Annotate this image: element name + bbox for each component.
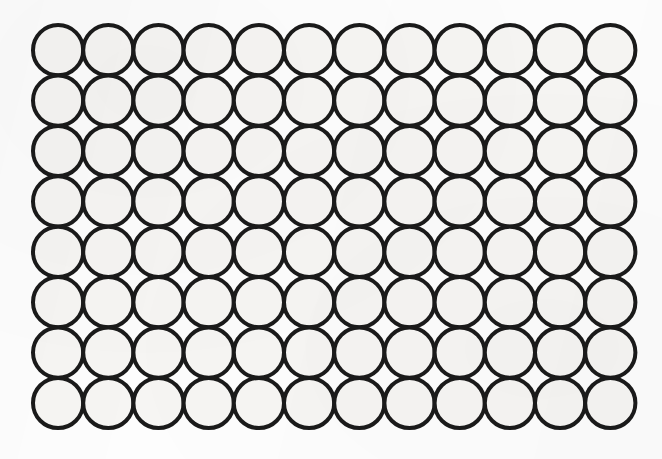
lattice-circle [485,76,535,126]
lattice-circle [133,227,183,277]
lattice-circle [435,378,485,428]
lattice-circle [83,126,133,176]
lattice-circle [585,176,635,226]
lattice-circle [234,227,284,277]
lattice-circle [184,378,234,428]
lattice-circle [334,76,384,126]
lattice-circle [234,378,284,428]
lattice-circle [585,378,635,428]
lattice-circle [535,378,585,428]
lattice-circle [435,25,485,75]
circle-lattice [0,0,662,459]
circle-group [33,25,635,428]
lattice-circle [334,126,384,176]
lattice-circle [334,25,384,75]
lattice-circle [435,328,485,378]
lattice-circle [485,277,535,327]
lattice-circle [184,25,234,75]
lattice-circle [33,328,83,378]
lattice-circle [585,227,635,277]
lattice-circle [435,126,485,176]
lattice-circle [485,176,535,226]
lattice-circle [284,126,334,176]
lattice-circle [384,378,434,428]
lattice-circle [83,328,133,378]
lattice-circle [585,277,635,327]
lattice-circle [284,328,334,378]
lattice-circle [284,76,334,126]
lattice-circle [485,126,535,176]
lattice-circle [133,378,183,428]
lattice-circle [585,126,635,176]
lattice-circle [33,176,83,226]
lattice-circle [33,76,83,126]
lattice-circle [33,25,83,75]
lattice-circle [334,227,384,277]
lattice-circle [83,76,133,126]
lattice-circle [435,227,485,277]
lattice-circle [184,227,234,277]
figure-canvas [0,0,662,459]
lattice-circle [133,277,183,327]
lattice-circle [585,25,635,75]
lattice-circle [234,25,284,75]
lattice-circle [133,126,183,176]
lattice-circle [485,328,535,378]
lattice-circle [384,277,434,327]
lattice-circle [234,328,284,378]
lattice-circle [384,227,434,277]
lattice-circle [435,277,485,327]
lattice-circle [133,176,183,226]
lattice-circle [284,378,334,428]
lattice-circle [234,76,284,126]
lattice-circle [133,328,183,378]
lattice-circle [184,76,234,126]
lattice-circle [284,176,334,226]
lattice-circle [184,126,234,176]
lattice-circle [33,227,83,277]
lattice-circle [485,227,535,277]
lattice-circle [535,227,585,277]
lattice-circle [535,76,585,126]
lattice-circle [33,126,83,176]
lattice-circle [33,277,83,327]
lattice-circle [535,277,585,327]
lattice-circle [83,378,133,428]
lattice-circle [83,277,133,327]
lattice-circle [384,126,434,176]
lattice-circle [184,277,234,327]
lattice-circle [33,378,83,428]
lattice-circle [485,378,535,428]
lattice-circle [133,25,183,75]
lattice-circle [234,176,284,226]
lattice-circle [535,328,585,378]
lattice-circle [284,277,334,327]
lattice-circle [384,328,434,378]
lattice-circle [585,328,635,378]
lattice-circle [585,76,635,126]
lattice-circle [83,227,133,277]
lattice-circle [334,328,384,378]
lattice-circle [535,126,585,176]
lattice-circle [234,126,284,176]
lattice-circle [435,76,485,126]
lattice-circle [234,277,284,327]
lattice-circle [334,176,384,226]
lattice-circle [535,25,585,75]
lattice-circle [184,328,234,378]
lattice-circle [284,25,334,75]
lattice-circle [133,76,183,126]
lattice-circle [334,378,384,428]
lattice-circle [485,25,535,75]
lattice-circle [384,76,434,126]
lattice-circle [535,176,585,226]
lattice-circle [83,25,133,75]
lattice-circle [384,25,434,75]
lattice-circle [83,176,133,226]
lattice-circle [334,277,384,327]
lattice-circle [435,176,485,226]
lattice-circle [384,176,434,226]
lattice-circle [284,227,334,277]
lattice-circle [184,176,234,226]
